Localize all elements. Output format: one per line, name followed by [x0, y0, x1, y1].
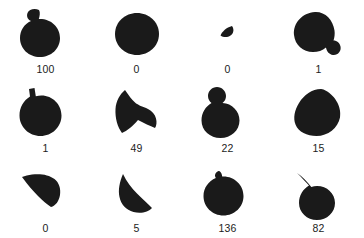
shape-path	[118, 174, 151, 213]
shape-path	[115, 90, 156, 133]
shape-svg	[100, 4, 174, 62]
shape-label: 15	[312, 142, 324, 154]
shape-svg	[282, 4, 356, 62]
shape-path	[294, 89, 340, 136]
shape-label: 22	[221, 142, 233, 154]
shape-cell: 0	[182, 0, 273, 79]
shape-path	[293, 12, 340, 55]
shape-label: 49	[130, 142, 142, 154]
shape-path	[22, 174, 60, 207]
shape-label: 0	[133, 63, 139, 75]
circle-with-curved-stem-upper-left-icon	[282, 163, 356, 221]
shape-svg	[9, 4, 83, 62]
shape-svg	[9, 83, 83, 141]
shape-cell: 0	[91, 0, 182, 79]
round-blob-icon	[100, 4, 174, 62]
shape-svg	[191, 163, 265, 221]
circle-with-small-bump-upper-left-icon	[9, 4, 83, 62]
blob-with-lower-right-lobe-icon	[282, 4, 356, 62]
shape-label: 136	[218, 222, 236, 234]
shape-label: 5	[133, 222, 139, 234]
shape-cell: 82	[273, 159, 364, 238]
shape-svg	[100, 83, 174, 141]
curved-wedge-pointing-left-icon	[9, 163, 83, 221]
shape-path	[19, 88, 61, 136]
half-moon-wedge-icon	[100, 163, 174, 221]
shape-path	[297, 173, 335, 220]
shape-label: 0	[42, 222, 48, 234]
shape-path	[203, 171, 243, 216]
arrowhead-heart-blob-icon	[100, 83, 174, 141]
shape-grid: 10000114922150513682	[0, 0, 364, 238]
circle-with-notch-upper-left-icon	[191, 163, 265, 221]
tiny-crescent-sliver-icon	[191, 4, 265, 62]
shape-svg	[191, 4, 265, 62]
shape-cell: 0	[0, 159, 91, 238]
shape-cell: 1	[273, 0, 364, 79]
shape-path	[220, 26, 233, 37]
shape-label: 1	[42, 142, 48, 154]
shape-svg	[100, 163, 174, 221]
shape-cell: 136	[182, 159, 273, 238]
shape-cell: 100	[0, 0, 91, 79]
shape-label: 100	[36, 63, 54, 75]
shape-label: 0	[224, 63, 230, 75]
circle-with-round-knob-top-left-icon	[191, 83, 265, 141]
circle-with-square-knob-top-left-icon	[9, 83, 83, 141]
shape-path	[115, 13, 159, 55]
shape-cell: 49	[91, 79, 182, 158]
shape-svg	[282, 163, 356, 221]
shape-svg	[191, 83, 265, 141]
shape-cell: 15	[273, 79, 364, 158]
shape-cell: 1	[0, 79, 91, 158]
shape-label: 82	[312, 222, 324, 234]
shape-label: 1	[315, 63, 321, 75]
shape-path	[20, 9, 60, 57]
pear-teardrop-icon	[282, 83, 356, 141]
shape-svg	[282, 83, 356, 141]
shape-svg	[9, 163, 83, 221]
shape-path	[201, 87, 239, 138]
shape-cell: 22	[182, 79, 273, 158]
shape-cell: 5	[91, 159, 182, 238]
